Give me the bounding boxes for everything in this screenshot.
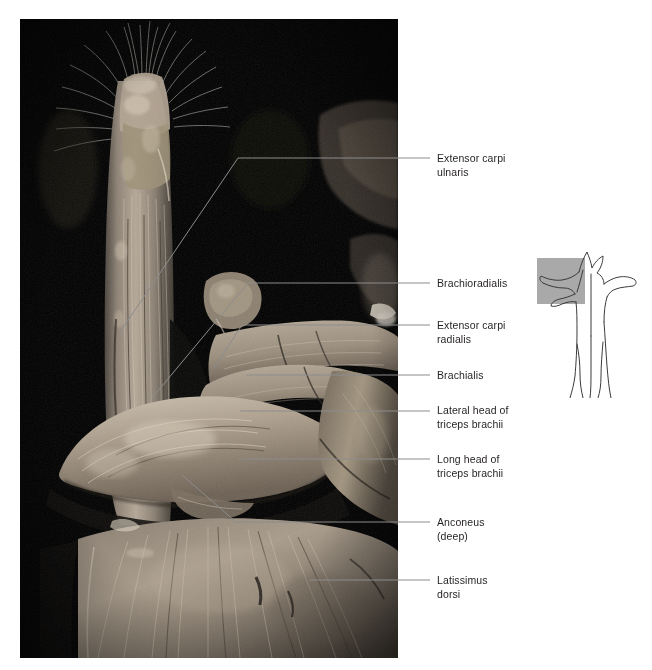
orientation-key xyxy=(527,248,647,398)
orientation-highlight-box xyxy=(537,258,585,304)
specimen-photograph xyxy=(20,19,398,658)
label-brachialis: Brachialis xyxy=(437,369,484,383)
specimen-photograph-canvas xyxy=(20,19,398,658)
label-brachioradialis: Brachioradialis xyxy=(437,277,507,291)
label-long-head-triceps: Long head of triceps brachii xyxy=(437,453,503,480)
label-lateral-head-triceps: Lateral head of triceps brachii xyxy=(437,404,509,431)
label-anconeus: Anconeus (deep) xyxy=(437,516,485,543)
label-latissimus-dorsi: Latissimus dorsi xyxy=(437,574,488,601)
label-extensor-carpi-ulnaris: Extensor carpi ulnaris xyxy=(437,152,506,179)
label-extensor-carpi-radialis: Extensor carpi radialis xyxy=(437,319,506,346)
